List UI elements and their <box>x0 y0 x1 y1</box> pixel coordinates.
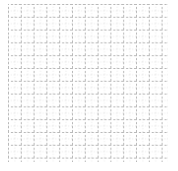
grid-canvas <box>0 0 178 171</box>
grid-surface <box>8 4 168 162</box>
grid-lines-svg <box>8 4 168 162</box>
grid-fill <box>8 4 168 162</box>
